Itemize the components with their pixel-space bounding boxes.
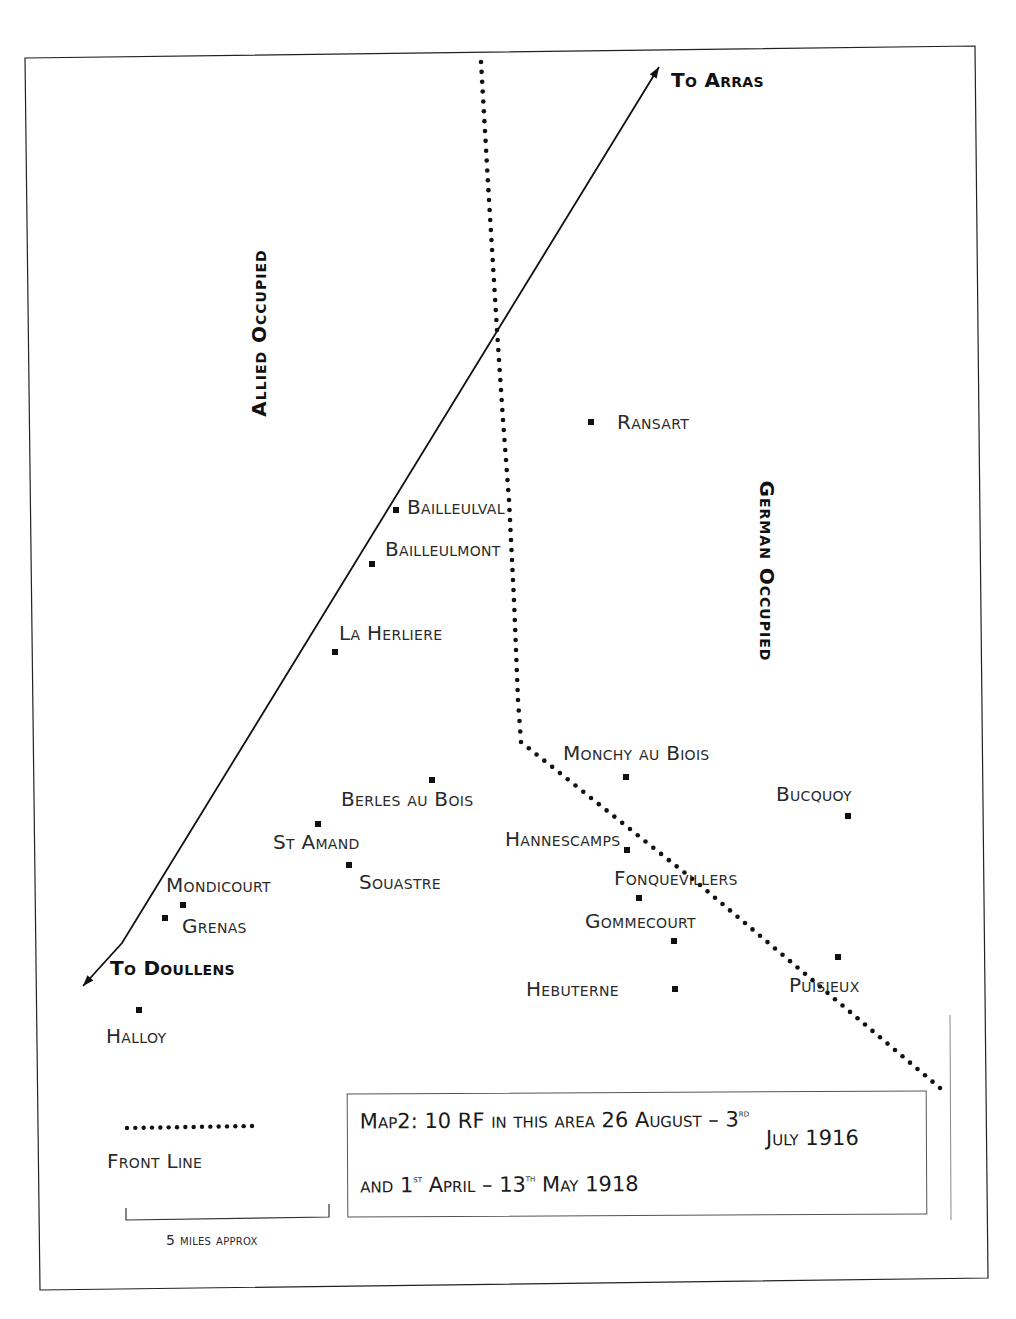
town-marker-hebuterne [672,986,678,992]
town-label-hebuterne: Hebuterne [526,979,619,999]
town-label-gommecourt: Gommecourt [585,911,696,931]
town-marker-st-amand [315,821,321,827]
town-marker-mondicourt [180,902,186,908]
scale-bar [126,1204,329,1220]
front-line-dotted [479,60,943,1091]
town-label-monchy-au-biois: Monchy au Biois [563,743,710,763]
town-marker-gommecourt [671,938,677,944]
town-label-st-amand: St Amand [273,832,360,852]
town-marker-monchy-au-biois [623,774,629,780]
town-label-puisieux: Puisieux [789,975,860,995]
label-to-doullens: To Doullens [110,958,235,978]
town-marker-bailleulval [393,507,399,513]
town-label-bucquoy: Bucquoy [776,784,852,804]
town-marker-fonquevillers [636,895,642,901]
legend-front-line-label: Front Line [107,1151,202,1171]
town-label-mondicourt: Mondicourt [166,875,271,895]
town-label-souastre: Souastre [359,872,441,892]
zone-label-german-occupied: German Occupied [757,481,777,662]
town-marker-halloy [136,1007,142,1013]
town-marker-ransart [588,419,594,425]
town-label-hannescamps: Hannescamps [505,829,620,849]
town-marker-grenas [162,915,168,921]
side-rule [950,1015,951,1220]
zone-label-allied-occupied: Allied Occupied [248,249,268,416]
town-marker-bucquoy [845,813,851,819]
arrow-head-icon-arras [650,67,659,78]
caption-line-2: July 1916 [766,1128,859,1149]
scale-bar-label: 5 miles approx [166,1233,258,1247]
town-marker-la-herliere [332,649,338,655]
town-marker-souastre [346,862,352,868]
town-label-ransart: Ransart [617,412,689,432]
town-label-bailleulmont: Bailleulmont [385,539,501,559]
caption-box: Map2: 10 RF in this area 26 August – 3rd… [347,1090,928,1217]
caption-line-1: Map2: 10 RF in this area 26 August – 3rd [360,1108,749,1132]
town-label-grenas: Grenas [182,916,247,936]
town-marker-puisieux [835,954,841,960]
town-label-fonquevillers: Fonquevillers [614,868,738,888]
town-label-la-herliere: La Herliere [339,623,442,643]
town-label-bailleulval: Bailleulval [407,497,505,517]
town-marker-bailleulmont [369,561,375,567]
town-label-halloy: Halloy [106,1026,166,1046]
town-marker-berles-au-bois [429,777,435,783]
caption-line-3: and 1st April – 13th May 1918 [360,1173,639,1196]
label-to-arras: To Arras [671,70,764,90]
town-marker-hannescamps [624,847,630,853]
town-label-berles-au-bois: Berles au Bois [341,789,473,809]
legend-front-line-sample [125,1124,254,1130]
